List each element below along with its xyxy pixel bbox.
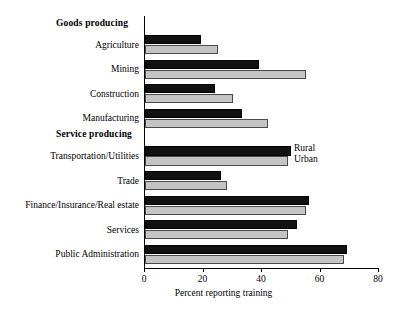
category-label-mining: Mining [111,64,139,74]
x-tick-40 [261,268,262,272]
category-label-public-administration: Public Administration [55,249,139,259]
x-tick-label-20: 20 [198,274,208,284]
x-tick-label-40: 40 [256,274,266,284]
bar-urban-public-administration [145,255,344,264]
plot-area: 020406080 [144,16,378,268]
bar-rural-mining [145,60,259,69]
bar-urban-mining [145,70,306,79]
bar-urban-finance-insurance-real-estate [145,206,306,215]
bar-chart-figure: Goods producing Service producing Agricu… [0,0,393,310]
group-header-service-producing: Service producing [56,129,132,139]
bar-rural-agriculture [145,35,201,44]
bar-rural-manufacturing [145,109,242,118]
bar-rural-public-administration [145,245,347,254]
legend-label-urban: Urban [294,154,318,164]
x-tick-label-0: 0 [142,274,147,284]
category-label-agriculture: Agriculture [95,40,139,50]
bar-urban-transportation-utilities [145,156,288,165]
x-tick-label-60: 60 [315,274,325,284]
x-axis-title-wrap: Percent reporting training [0,288,393,298]
category-label-construction: Construction [90,89,139,99]
category-label-trade: Trade [117,176,139,186]
x-tick-0 [144,268,145,272]
bar-rural-finance-insurance-real-estate [145,196,309,205]
x-tick-80 [378,268,379,272]
x-axis-title: Percent reporting training [175,288,273,298]
x-tick-label-80: 80 [373,274,383,284]
bar-urban-construction [145,94,233,103]
group-header-goods-producing: Goods producing [56,18,128,28]
category-label-finance-insurance-real-estate: Finance/Insurance/Real estate [25,200,139,210]
bar-rural-trade [145,171,221,180]
x-tick-20 [203,268,204,272]
x-tick-60 [320,268,321,272]
bar-urban-trade [145,181,227,190]
bar-rural-services [145,220,297,229]
legend-label-rural: Rural [294,143,315,153]
category-label-manufacturing: Manufacturing [83,113,139,123]
bar-urban-agriculture [145,45,218,54]
bar-urban-manufacturing [145,119,268,128]
bar-urban-services [145,230,288,239]
bar-rural-transportation-utilities [145,146,291,155]
category-label-transportation-utilities: Transportation/Utilities [50,151,139,161]
bar-rural-construction [145,84,215,93]
category-label-services: Services [107,225,139,235]
